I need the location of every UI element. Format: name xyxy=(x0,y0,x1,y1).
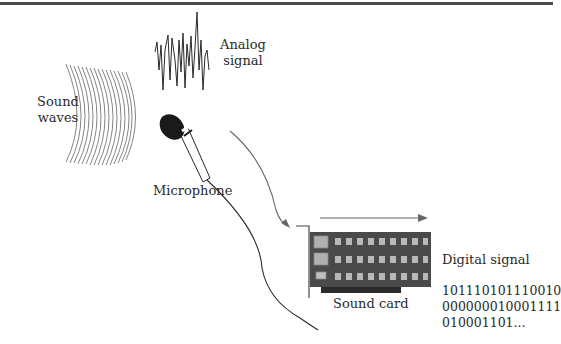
sound-waves-label-line1: Sound xyxy=(28,94,88,110)
signal-flow-arrow xyxy=(230,131,290,228)
binary-data: 101110101110010 000000010001111 01000110… xyxy=(442,283,561,331)
analog-signal-label-line1: Analog xyxy=(214,37,272,53)
digital-output-arrow xyxy=(320,214,428,222)
binary-line: 010001101... xyxy=(442,315,561,331)
analog-signal-label-line2: signal xyxy=(214,53,272,69)
analog-signal-icon xyxy=(155,12,209,90)
binary-line: 000000010001111 xyxy=(442,299,561,315)
sound-waves-label-line2: waves xyxy=(28,110,88,126)
microphone-label: Microphone xyxy=(153,183,232,199)
card-bracket xyxy=(296,226,309,298)
binary-line: 101110101110010 xyxy=(442,283,561,299)
sound-waves-label: Sound waves xyxy=(28,94,88,126)
microphone-cable xyxy=(207,180,318,330)
analog-signal-label: Analog signal xyxy=(214,37,272,69)
sound-card-icon xyxy=(310,232,431,293)
sound-card-label: Sound card xyxy=(333,296,409,312)
digital-signal-label: Digital signal xyxy=(442,252,530,268)
microphone-icon xyxy=(155,109,210,182)
